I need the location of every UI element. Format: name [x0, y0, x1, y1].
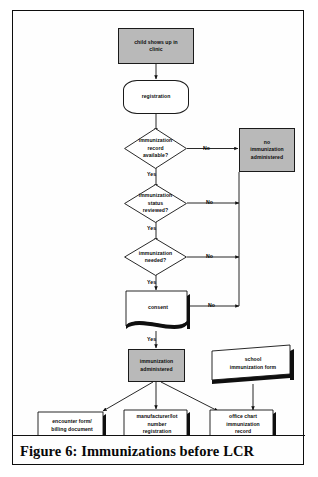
- node-label: child shows up inclinic: [132, 39, 180, 54]
- node-label: office chartimmunizationrecord: [224, 413, 261, 435]
- node-label: immunizationrecordavailable?: [137, 137, 174, 159]
- node-immunization-administered[interactable]: immunizationadministered: [128, 349, 185, 382]
- edge-label-consent-no: No: [208, 302, 215, 308]
- figure-frame: child shows up inclinic registration imm…: [12, 10, 304, 465]
- node-immunization-needed[interactable]: immunizationneeded?: [124, 238, 187, 276]
- edge-label-consent-yes: Yes: [147, 336, 156, 342]
- node-label: registration: [140, 93, 173, 100]
- edge-label-needed-no: No: [206, 253, 213, 259]
- edge-label-record-yes: Yes: [147, 171, 156, 177]
- figure-caption: Figure 6: Immunizations before LCR: [13, 437, 305, 465]
- caption-divider: [13, 435, 305, 436]
- edge-label-status-no: No: [206, 199, 213, 205]
- edge-label-needed-yes: Yes: [147, 279, 156, 285]
- node-child-shows-up-in-clinic[interactable]: child shows up inclinic: [118, 28, 194, 64]
- node-label: schoolimmunization form: [228, 356, 278, 371]
- node-consent[interactable]: consent: [125, 290, 191, 331]
- node-label: consent: [146, 304, 170, 311]
- node-label: encounter form/billing document: [49, 418, 95, 433]
- node-label: immunizationstatusreviewed?: [137, 192, 174, 214]
- node-label: immunizationneeded?: [137, 250, 174, 265]
- node-school-immunization-form[interactable]: schoolimmunization form: [211, 344, 295, 384]
- edge-label-status-yes: Yes: [147, 225, 156, 231]
- node-encounter-form-billing-document[interactable]: encounter form/billing document: [37, 411, 107, 435]
- node-office-chart-immunization-record[interactable]: office chartimmunizationrecord: [209, 409, 277, 435]
- node-manufacturer-lot-number-registration[interactable]: manufacturer/lotnumberregistration: [123, 409, 191, 435]
- node-label: noimmunizationadministered: [248, 139, 285, 161]
- flowchart-diagram: child shows up inclinic registration imm…: [13, 11, 305, 435]
- node-label: manufacturer/lotnumberregistration: [135, 413, 180, 435]
- node-no-immunization-administered[interactable]: noimmunizationadministered: [239, 128, 295, 172]
- node-label: immunizationadministered: [138, 358, 175, 373]
- node-registration[interactable]: registration: [123, 80, 189, 114]
- node-immunization-status-reviewed[interactable]: immunizationstatusreviewed?: [124, 184, 187, 223]
- edge-label-record-no: No: [203, 145, 210, 151]
- node-immunization-record-available[interactable]: immunizationrecordavailable?: [124, 128, 187, 169]
